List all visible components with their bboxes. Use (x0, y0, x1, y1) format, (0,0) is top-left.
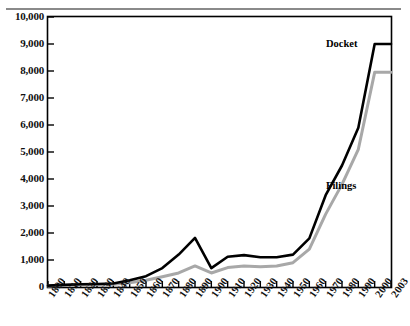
series-label-filings: Filings (326, 180, 356, 191)
y-axis-tick-label: 6,000 (0, 118, 44, 130)
y-axis-tick-label: 10,000 (0, 10, 44, 22)
series-label-docket: Docket (326, 38, 358, 49)
plot-frame (48, 17, 392, 288)
y-axis-tick-label: 2,000 (0, 226, 44, 238)
y-axis-tick-label: 7,000 (0, 91, 44, 103)
y-axis-tick-label: 0 (0, 280, 44, 292)
y-axis-tick-label: 4,000 (0, 172, 44, 184)
y-axis-tick-label: 3,000 (0, 199, 44, 211)
y-axis-tick-label: 5,000 (0, 145, 44, 157)
y-axis-tick-label: 8,000 (0, 64, 44, 76)
y-axis-tick-label: 9,000 (0, 37, 44, 49)
y-axis-tick-label: 1,000 (0, 253, 44, 265)
